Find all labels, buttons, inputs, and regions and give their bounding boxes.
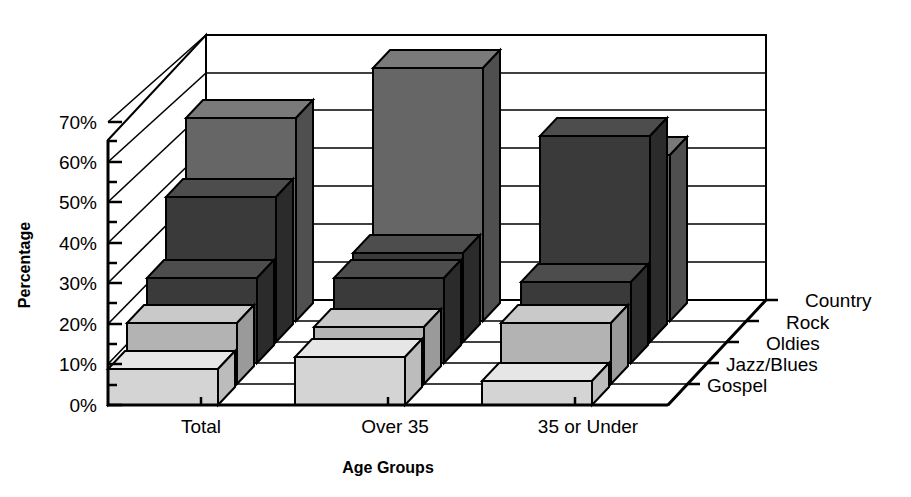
y-tick-label-10: 10%: [59, 354, 97, 375]
y-tick-label-50: 50%: [59, 192, 97, 213]
bar-chart-3d: 0% 10% 20% 30% 40% 50% 60% 70% Total Ove…: [0, 0, 911, 497]
y-axis-title: Percentage: [16, 222, 33, 308]
x-group-label-35orunder: 35 or Under: [538, 416, 639, 437]
bar-gospel-total: [108, 351, 235, 405]
series-label-jazzblues: Jazz/Blues: [726, 354, 818, 375]
series-label-oldies: Oldies: [766, 333, 820, 354]
series-label-country: Country: [805, 290, 872, 311]
y-tick-label-0: 0%: [70, 395, 98, 416]
series-label-rock: Rock: [786, 312, 830, 333]
x-axis-title: Age Groups: [342, 459, 434, 476]
series-label-gospel: Gospel: [707, 375, 767, 396]
chart-container: 0% 10% 20% 30% 40% 50% 60% 70% Total Ove…: [0, 0, 911, 497]
bar-gospel-35orunder: [482, 363, 609, 405]
y-tick-label-40: 40%: [59, 233, 97, 254]
y-tick-label-30: 30%: [59, 273, 97, 294]
y-tick-label-60: 60%: [59, 152, 97, 173]
y-tick-label-20: 20%: [59, 314, 97, 335]
y-tick-label-70: 70%: [59, 112, 97, 133]
bar-gospel-over35: [295, 339, 422, 405]
x-group-label-total: Total: [181, 416, 221, 437]
x-group-label-over35: Over 35: [361, 416, 429, 437]
